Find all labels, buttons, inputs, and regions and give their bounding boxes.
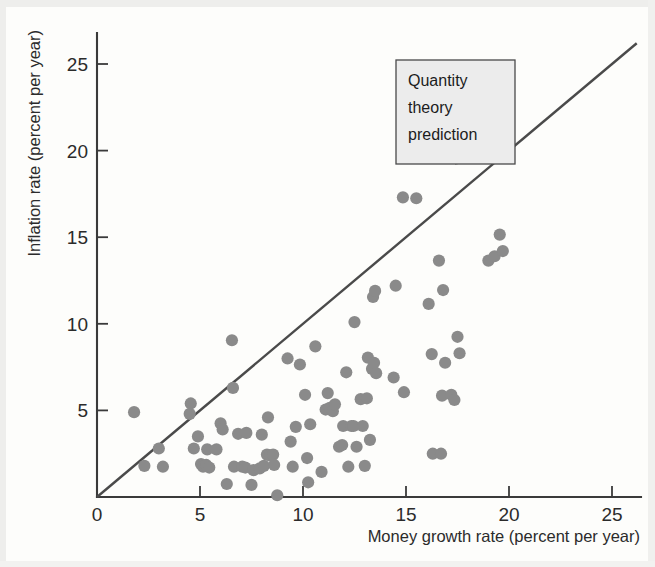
scatter-point: [342, 461, 354, 473]
y-tick-label-20: 20: [67, 141, 88, 162]
y-tick-label-25: 25: [67, 54, 88, 75]
scatter-point: [397, 191, 409, 203]
scatter-point: [426, 348, 438, 360]
chart-page: 510152025 0510152025 Quantity theory pre…: [0, 0, 655, 567]
scatter-point: [388, 371, 400, 383]
scatter-point: [369, 285, 381, 297]
scatter-point: [398, 386, 410, 398]
scatter-point: [227, 382, 239, 394]
scatter-point: [348, 316, 360, 328]
scatter-point: [157, 461, 169, 473]
x-tick-label-25: 25: [601, 504, 622, 525]
scatter-point: [453, 347, 465, 359]
scatter-point: [302, 476, 314, 488]
scatter-point: [336, 439, 348, 451]
scatter-point: [267, 448, 279, 460]
x-tick-label-20: 20: [498, 504, 519, 525]
callout-line-1: Quantity: [408, 72, 468, 89]
scatter-point: [245, 479, 257, 491]
scatter-point: [268, 459, 280, 471]
scatter-point: [188, 442, 200, 454]
x-axis-ticks: 0510152025: [92, 486, 623, 525]
scatter-plot: 510152025 0510152025 Quantity theory pre…: [0, 0, 655, 567]
scatter-point: [271, 489, 283, 501]
scatter-point: [281, 352, 293, 364]
x-tick-label-10: 10: [292, 504, 313, 525]
scatter-point: [364, 434, 376, 446]
scatter-point: [184, 408, 196, 420]
scatter-point: [370, 367, 382, 379]
callout-line-2: theory: [408, 99, 452, 116]
x-tick-label-15: 15: [395, 504, 416, 525]
y-tick-label-5: 5: [77, 400, 88, 421]
y-tick-label-15: 15: [67, 227, 88, 248]
scatter-point: [210, 443, 222, 455]
scatter-point: [439, 357, 451, 369]
scatter-points: [128, 191, 509, 501]
scatter-point: [203, 461, 215, 473]
x-tick-label-5: 5: [195, 504, 206, 525]
scatter-point: [217, 423, 229, 435]
scatter-point: [340, 366, 352, 378]
scatter-point: [410, 192, 422, 204]
quantity-theory-prediction-annotation: Quantity theory prediction: [396, 60, 515, 164]
scatter-point: [448, 394, 460, 406]
scatter-point: [497, 245, 509, 257]
scatter-point: [368, 357, 380, 369]
scatter-point: [262, 411, 274, 423]
scatter-point: [153, 442, 165, 454]
scatter-point: [437, 284, 449, 296]
scatter-point: [256, 429, 268, 441]
scatter-point: [423, 298, 435, 310]
scatter-point: [185, 397, 197, 409]
scatter-point: [494, 229, 506, 241]
scatter-point: [192, 430, 204, 442]
scatter-point: [226, 334, 238, 346]
x-axis-title: Money growth rate (percent per year): [368, 527, 640, 545]
x-tick-label-0: 0: [92, 504, 103, 525]
scatter-point: [290, 421, 302, 433]
scatter-point: [138, 460, 150, 472]
scatter-point: [287, 461, 299, 473]
scatter-point: [240, 427, 252, 439]
scatter-point: [350, 441, 362, 453]
scatter-point: [329, 398, 341, 410]
scatter-point: [435, 448, 447, 460]
scatter-point: [361, 392, 373, 404]
scatter-point: [304, 418, 316, 430]
scatter-point: [128, 406, 140, 418]
scatter-point: [359, 460, 371, 472]
scatter-point: [322, 387, 334, 399]
scatter-point: [285, 435, 297, 447]
scatter-point: [221, 478, 233, 490]
scatter-point: [309, 340, 321, 352]
y-axis-title: Inflation rate (percent per year): [25, 30, 43, 257]
scatter-point: [357, 420, 369, 432]
scatter-point: [451, 331, 463, 343]
scatter-point: [315, 466, 327, 478]
y-axis-ticks: 510152025: [67, 54, 108, 421]
scatter-point: [301, 452, 313, 464]
scatter-point: [294, 358, 306, 370]
scatter-point: [390, 280, 402, 292]
scatter-point: [299, 389, 311, 401]
scatter-point: [433, 254, 445, 266]
callout-line-3: prediction: [408, 126, 477, 143]
y-tick-label-10: 10: [67, 314, 88, 335]
